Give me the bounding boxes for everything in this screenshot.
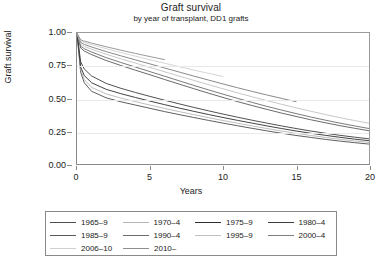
legend-line-swatch	[50, 222, 76, 223]
chart-root: Graft survival by year of transplant, DD…	[0, 0, 382, 264]
series-line	[77, 33, 369, 123]
gridline	[77, 100, 369, 101]
x-tick-label: 15	[291, 172, 301, 182]
x-tick-label: 0	[73, 172, 78, 182]
legend-row: 1965–91970–41975–91980–4	[46, 216, 336, 229]
legend-line-swatch	[123, 222, 149, 223]
legend-row: 2006–102010–	[46, 242, 336, 255]
legend-line-swatch	[50, 248, 76, 249]
legend-item[interactable]: 1965–9	[46, 218, 119, 227]
legend-label: 2010–	[154, 244, 176, 253]
x-tick-mark	[150, 166, 151, 170]
series-line	[77, 33, 369, 131]
x-tick-mark	[76, 166, 77, 170]
legend-item[interactable]: 1970–4	[119, 218, 192, 227]
x-tick-label: 10	[218, 172, 228, 182]
legend-item[interactable]: 1990–4	[119, 231, 192, 240]
x-axis-label: Years	[0, 186, 382, 196]
series-canvas	[77, 33, 369, 164]
legend-item[interactable]: 1975–9	[191, 218, 264, 227]
y-axis-label: Graft survival	[3, 0, 13, 117]
legend-item[interactable]: 1985–9	[46, 231, 119, 240]
legend-item[interactable]: 2010–	[119, 244, 192, 253]
legend-line-swatch	[195, 235, 221, 236]
x-tick-label: 20	[365, 172, 375, 182]
gridline	[77, 66, 369, 67]
legend-item[interactable]: 2000–4	[264, 231, 337, 240]
series-line	[77, 33, 369, 141]
gridline	[77, 133, 369, 134]
x-tick-mark	[223, 166, 224, 170]
legend-label: 1970–4	[154, 218, 181, 227]
legend-row: 1985–91990–41995–92000–4	[46, 229, 336, 242]
legend-label: 1990–4	[154, 231, 181, 240]
legend-label: 1985–9	[81, 231, 108, 240]
x-tick-mark	[297, 166, 298, 170]
legend-label: 1980–4	[299, 218, 326, 227]
legend-item[interactable]: 1980–4	[264, 218, 337, 227]
series-line	[77, 33, 369, 142]
legend-line-swatch	[50, 235, 76, 236]
legend-item[interactable]: 1995–9	[191, 231, 264, 240]
plot-area	[76, 32, 370, 165]
series-line	[77, 33, 296, 102]
x-tick-mark	[370, 166, 371, 170]
legend-item[interactable]: 2006–10	[46, 244, 119, 253]
legend-line-swatch	[268, 222, 294, 223]
legend-line-swatch	[268, 235, 294, 236]
x-tick-label: 5	[147, 172, 152, 182]
legend-label: 1995–9	[226, 231, 253, 240]
legend-label: 2000–4	[299, 231, 326, 240]
legend: 1965–91970–41975–91980–41985–91990–41995…	[45, 211, 337, 256]
legend-line-swatch	[123, 235, 149, 236]
legend-label: 2006–10	[81, 244, 112, 253]
legend-line-swatch	[123, 248, 149, 249]
legend-line-swatch	[195, 222, 221, 223]
legend-label: 1975–9	[226, 218, 253, 227]
legend-label: 1965–9	[81, 218, 108, 227]
